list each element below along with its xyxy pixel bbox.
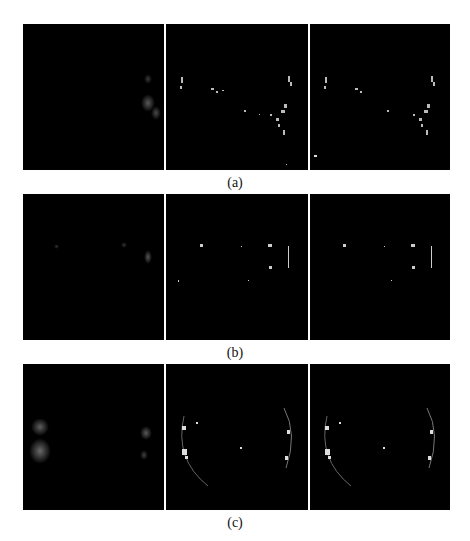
caption-b: (b): [0, 345, 470, 361]
image-panel-b-3: [310, 194, 450, 340]
speckle-pattern: [166, 194, 308, 340]
figure-row-a: [23, 24, 450, 170]
image-panel-c-3: [310, 364, 450, 510]
ring-arc-pattern: [310, 364, 450, 510]
image-panel-a-2: [166, 24, 308, 170]
figure-row-b: [23, 194, 450, 340]
image-panel-b-1: [23, 194, 164, 340]
caption-c: (c): [0, 515, 470, 531]
image-panel-a-1: [23, 24, 164, 170]
image-panel-c-2: [166, 364, 308, 510]
speckle-pattern: [310, 194, 450, 340]
image-panel-b-2: [166, 194, 308, 340]
speckle-pattern: [310, 24, 450, 170]
caption-a: (a): [0, 175, 470, 191]
figure-row-c: [23, 364, 450, 510]
speckle-pattern: [166, 24, 308, 170]
image-panel-a-3: [310, 24, 450, 170]
ring-arc-pattern: [166, 364, 308, 510]
image-panel-c-1: [23, 364, 164, 510]
